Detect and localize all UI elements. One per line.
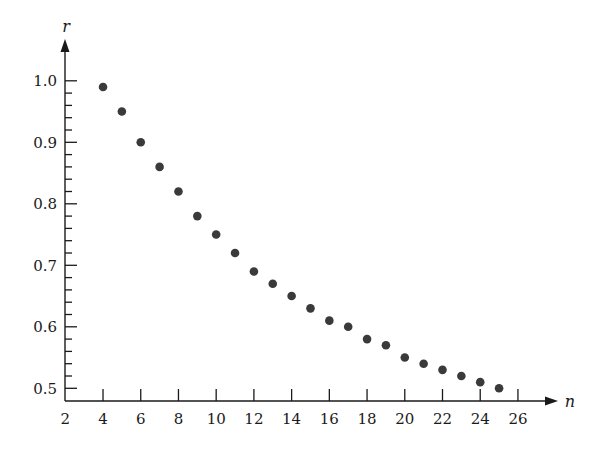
data-point (212, 230, 221, 239)
y-tick-label: 0.6 (33, 318, 57, 336)
data-point (306, 304, 315, 313)
data-point (400, 353, 409, 362)
data-point (457, 372, 466, 381)
y-tick-label: 0.8 (33, 195, 57, 213)
x-tick-label: 2 (61, 410, 71, 428)
x-axis-ticks (103, 389, 518, 401)
data-point (250, 267, 259, 276)
data-point (363, 335, 372, 344)
data-point (174, 187, 183, 196)
data-point (476, 378, 485, 387)
x-tick-label: 8 (174, 410, 184, 428)
data-point (287, 292, 296, 301)
data-points (99, 83, 504, 393)
data-point (155, 163, 164, 172)
x-tick-label: 6 (136, 410, 146, 428)
y-tick-label: 0.5 (33, 380, 57, 398)
x-tick-label: 22 (433, 410, 452, 428)
x-tick-label: 24 (471, 410, 490, 428)
y-axis-ticks (65, 81, 77, 389)
x-tick-label: 10 (207, 410, 226, 428)
x-axis-arrow-icon (545, 397, 558, 406)
data-point (325, 316, 334, 325)
x-tick-label: 16 (320, 410, 339, 428)
data-point (231, 249, 240, 258)
x-tick-label: 12 (244, 410, 263, 428)
x-tick-label: 18 (358, 410, 377, 428)
y-axis-arrow-icon (61, 39, 70, 52)
y-tick-label: 1.0 (33, 72, 57, 90)
x-axis-tick-labels: 2468101214161820222426 (61, 410, 528, 428)
data-point (268, 279, 277, 288)
y-tick-label: 0.9 (33, 134, 57, 152)
y-axis-label: r (62, 17, 71, 36)
data-point (118, 107, 127, 116)
data-point (438, 366, 447, 375)
x-tick-label: 20 (395, 410, 414, 428)
y-axis-tick-labels: 0.50.60.70.80.91.0 (33, 72, 57, 398)
data-point (419, 359, 428, 368)
x-tick-label: 26 (508, 410, 527, 428)
data-point (99, 83, 108, 92)
y-tick-label: 0.7 (33, 257, 57, 275)
data-point (136, 138, 145, 147)
x-tick-label: 4 (98, 410, 108, 428)
data-point (382, 341, 391, 350)
scatter-chart: 0.50.60.70.80.91.0 246810121416182022242… (0, 0, 598, 453)
data-point (193, 212, 202, 221)
data-point (344, 323, 353, 332)
data-point (495, 384, 504, 393)
x-axis-label: n (565, 392, 575, 411)
x-tick-label: 14 (282, 410, 301, 428)
